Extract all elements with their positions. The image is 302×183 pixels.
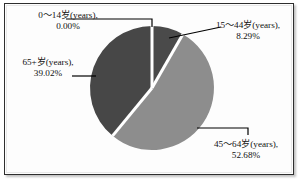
pie-label-0-14-value: 0.00% <box>16 21 120 32</box>
pie-label-15-44: 15～44岁(years), 8.29% <box>196 20 300 42</box>
pie-label-0-14: 0～14岁(years), 0.00% <box>16 10 120 32</box>
pie-label-45-64-category: 45～64岁(years), <box>214 139 278 149</box>
pie-label-0-14-category: 0～14岁(years), <box>38 10 98 20</box>
pie-label-15-44-category: 15～44岁(years), <box>216 20 280 30</box>
pie-label-65-plus: 65+岁(years), 39.02% <box>2 57 94 79</box>
pie-label-45-64-value: 52.68% <box>194 150 298 161</box>
leader-line-45-64 <box>197 128 248 135</box>
pie-label-15-44-value: 8.29% <box>196 31 300 42</box>
pie-label-45-64: 45～64岁(years), 52.68% <box>194 139 298 161</box>
pie-chart-figure: 0～14岁(years), 0.00% 15～44岁(years), 8.29%… <box>0 0 302 183</box>
pie-label-65-plus-category: 65+岁(years), <box>22 57 73 67</box>
pie-label-65-plus-value: 39.02% <box>2 68 94 79</box>
